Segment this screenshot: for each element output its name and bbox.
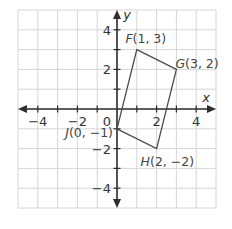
- axes: [18, 10, 216, 208]
- y-tick-label: −2: [92, 142, 111, 157]
- x-axis-left-arrow-icon: [18, 105, 27, 113]
- vertex-coords: (0, −1): [69, 125, 113, 140]
- vertex-coords: (3, 2): [185, 56, 219, 71]
- y-tick-label: 4: [103, 23, 111, 38]
- y-tick-label: −4: [92, 181, 111, 196]
- y-axis-down-arrow-icon: [113, 199, 121, 208]
- x-tick-label: 4: [192, 114, 200, 129]
- y-tick-label: 2: [103, 62, 111, 77]
- x-axis-label: x: [201, 90, 210, 105]
- y-axis-label: y: [122, 7, 131, 22]
- vertex-label-g: G(3, 2): [175, 56, 218, 71]
- x-tick-label: 2: [152, 114, 160, 129]
- vertex-label-f: F(1, 3): [125, 31, 166, 46]
- vertex-coords: (2, −2): [150, 154, 194, 169]
- y-axis-up-arrow-icon: [113, 10, 121, 19]
- vertex-label-h: H(2, −2): [141, 154, 195, 169]
- quadrilateral: [117, 50, 176, 149]
- vertex-name: G: [175, 56, 185, 71]
- x-axis-right-arrow-icon: [207, 105, 216, 113]
- vertex-label-j: J(0, −1): [62, 125, 113, 140]
- vertex-coords: (1, 3): [133, 31, 167, 46]
- quadrilateral-fghj: [117, 50, 176, 149]
- x-tick-label: −4: [28, 114, 47, 129]
- coordinate-plane: −4−22442−2−40xy F(1, 3)G(3, 2)H(2, −2)J(…: [0, 0, 232, 229]
